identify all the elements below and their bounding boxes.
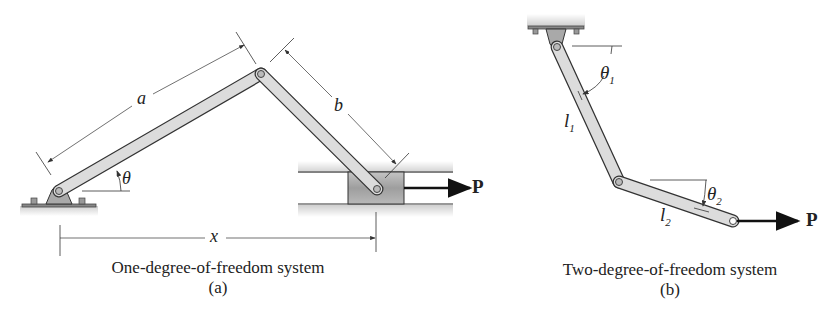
rail-shading-bottom	[298, 205, 453, 217]
caption-a-sublabel: (a)	[60, 278, 376, 298]
ceiling-shading	[527, 14, 585, 26]
label-l2: l2	[660, 204, 671, 228]
label-l2-subscript: 2	[665, 216, 671, 228]
caption-a: One-degree-of-freedom system (a)	[60, 258, 376, 298]
caption-a-title: One-degree-of-freedom system	[60, 258, 376, 278]
caption-b-sublabel: (b)	[530, 280, 810, 300]
ground-shading	[20, 206, 98, 216]
label-force-p-b: P	[806, 209, 818, 231]
pin-joint-icon	[374, 186, 381, 193]
label-l1-subscript: 1	[569, 122, 575, 134]
label-theta: θ	[122, 168, 131, 189]
label-force-p-a: P	[472, 176, 484, 198]
theta2-arc	[703, 180, 706, 206]
pin-joint-icon	[56, 188, 63, 195]
extension-line	[270, 38, 294, 62]
dimension-line-b	[348, 114, 396, 164]
label-x: x	[210, 226, 218, 247]
dimension-line-b	[285, 50, 332, 97]
pin-joint-icon	[730, 218, 737, 225]
caption-b: Two-degree-of-freedom system (b)	[530, 260, 810, 300]
extension-line	[36, 152, 51, 175]
label-b: b	[334, 95, 343, 116]
label-theta2-subscript: 2	[716, 195, 722, 207]
theta-arc	[117, 171, 121, 191]
label-theta1-subscript: 1	[609, 74, 615, 86]
label-theta1-symbol: θ	[600, 62, 609, 83]
bolt-icon	[533, 29, 538, 34]
bolt-icon	[31, 198, 37, 204]
label-theta1: θ1	[600, 62, 615, 86]
figure-a	[20, 32, 470, 256]
pin-joint-icon	[616, 179, 623, 186]
bolt-icon	[79, 198, 85, 204]
rail-shading-top	[298, 161, 453, 173]
pin-joint-icon	[554, 44, 561, 51]
pin-joint-icon	[258, 71, 265, 78]
label-l1: l1	[564, 110, 575, 134]
link-a	[59, 74, 261, 191]
label-theta2: θ2	[707, 183, 722, 207]
reference-tick	[611, 46, 612, 54]
label-a: a	[137, 88, 146, 109]
caption-b-title: Two-degree-of-freedom system	[530, 260, 810, 280]
bolt-icon	[574, 29, 579, 34]
label-theta2-symbol: θ	[707, 183, 716, 204]
